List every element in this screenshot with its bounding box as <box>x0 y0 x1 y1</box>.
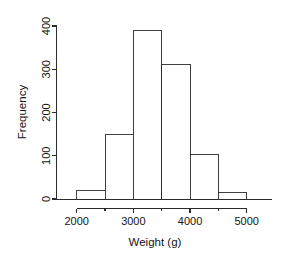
y-tick-label-0: 0 <box>40 196 52 202</box>
y-axis-title: Frequency <box>16 85 28 140</box>
histogram-bar-5 <box>190 155 218 199</box>
x-tick-label-2000: 2000 <box>64 215 88 227</box>
histogram-plot: 400 300 200 100 0 Frequency 2000 3000 40… <box>0 0 281 259</box>
x-tick-label-3000: 3000 <box>121 215 145 227</box>
y-tick-label-100: 100 <box>40 147 52 165</box>
histogram-bar-2 <box>105 134 133 199</box>
histogram-bar-6 <box>218 193 246 199</box>
histogram-bar-3 <box>133 30 161 199</box>
y-tick-label-400: 400 <box>40 17 52 35</box>
histogram-bar-4 <box>162 65 190 199</box>
y-tick-label-200: 200 <box>40 103 52 121</box>
x-tick-label-4000: 4000 <box>178 215 202 227</box>
histogram-figure: 400 300 200 100 0 Frequency 2000 3000 40… <box>0 0 281 259</box>
histogram-bar-1 <box>77 190 105 199</box>
x-tick-label-5000: 5000 <box>234 215 258 227</box>
y-tick-label-300: 300 <box>40 60 52 78</box>
x-axis-title: Weight (g) <box>129 236 182 248</box>
